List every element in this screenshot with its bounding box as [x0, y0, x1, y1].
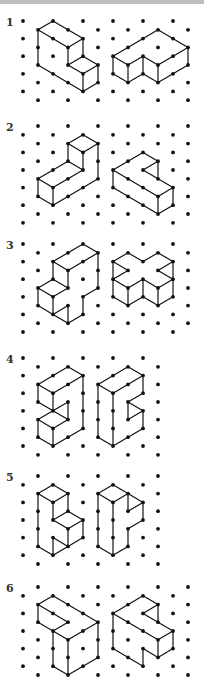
grid-dot	[36, 159, 40, 163]
edge-line	[98, 437, 113, 446]
edge-line	[158, 270, 173, 279]
grid-dot	[126, 142, 130, 146]
grid-dot	[36, 251, 40, 255]
grid-dot	[156, 286, 160, 290]
grid-dot	[111, 356, 115, 360]
grid-dot	[21, 594, 25, 598]
edge-line	[53, 666, 68, 675]
grid-dot	[81, 186, 85, 190]
grid-dot	[156, 28, 160, 32]
grid-dot	[111, 90, 115, 94]
edge-line	[53, 262, 68, 271]
grid-dot	[156, 562, 160, 566]
grid-dot	[81, 203, 85, 207]
grid-dot	[141, 356, 145, 360]
grid-dot	[21, 37, 25, 41]
edge-line	[68, 65, 83, 74]
grid-dot	[81, 356, 85, 360]
grid-dot	[126, 81, 130, 85]
grid-dot	[186, 656, 190, 660]
grid-dot	[66, 474, 70, 478]
edge-line	[83, 56, 98, 65]
grid-dot	[111, 260, 115, 264]
grid-dot	[21, 313, 25, 317]
grid-dot	[21, 483, 25, 487]
grid-dot	[81, 221, 85, 225]
edge-line	[158, 262, 173, 271]
grid-dot	[21, 409, 25, 413]
grid-dot	[51, 518, 55, 522]
grid-dot	[126, 474, 130, 478]
grid-dot	[51, 594, 55, 598]
grid-dot	[66, 383, 70, 387]
grid-dot	[81, 54, 85, 58]
grid-dot	[21, 203, 25, 207]
grid-dot	[111, 612, 115, 616]
grid-dot	[156, 159, 160, 163]
grid-dot	[111, 518, 115, 522]
grid-dot	[36, 63, 40, 67]
grid-dot	[66, 304, 70, 308]
grid-dot	[111, 151, 115, 155]
grid-dot	[186, 81, 190, 85]
figure-1	[21, 19, 190, 102]
edge-line	[53, 494, 68, 503]
edge-line	[38, 546, 53, 555]
edge-line	[143, 297, 158, 306]
grid-dot	[51, 72, 55, 76]
grid-dot	[96, 673, 100, 677]
edge-line	[83, 83, 98, 92]
grid-dot	[141, 427, 145, 431]
grid-dot	[21, 427, 25, 431]
grid-dot	[21, 90, 25, 94]
figure-3	[21, 242, 190, 334]
edge-line	[53, 420, 68, 429]
edge-line	[143, 605, 158, 614]
grid-dot	[51, 295, 55, 299]
grid-dot	[171, 330, 175, 334]
grid-dot	[126, 673, 130, 677]
edge-line	[113, 494, 128, 503]
grid-dot	[21, 553, 25, 557]
figure-label-1: 1	[6, 17, 14, 28]
grid-dot	[66, 81, 70, 85]
grid-dot	[96, 159, 100, 163]
edge-line	[128, 393, 143, 402]
grid-dot	[66, 400, 70, 404]
grid-dot	[81, 260, 85, 264]
grid-dot	[81, 391, 85, 395]
grid-dot	[81, 501, 85, 505]
edge-line	[128, 367, 143, 376]
grid-dot	[171, 90, 175, 94]
edge-line	[143, 74, 158, 83]
grid-dot	[171, 186, 175, 190]
edge-line	[128, 279, 143, 288]
edge-line	[158, 649, 173, 658]
grid-dot	[51, 133, 55, 137]
grid-dot	[96, 28, 100, 32]
edge-line	[53, 314, 68, 323]
grid-dot	[141, 553, 145, 557]
grid-dot	[141, 133, 145, 137]
grid-dot	[111, 54, 115, 58]
grid-dot	[111, 221, 115, 225]
edge-line	[38, 288, 53, 297]
grid-dot	[51, 391, 55, 395]
grid-dot	[156, 46, 160, 50]
edge-line	[38, 384, 53, 393]
grid-dot	[81, 444, 85, 448]
grid-dot	[51, 553, 55, 557]
grid-dot	[36, 638, 40, 642]
grid-dot	[66, 656, 70, 660]
edge-line	[68, 367, 83, 376]
grid-dot	[96, 492, 100, 496]
edge-line	[53, 622, 68, 631]
grid-dot	[126, 527, 130, 531]
grid-dot	[96, 418, 100, 422]
figure-5	[21, 474, 160, 566]
grid-dot	[156, 81, 160, 85]
grid-dot	[96, 177, 100, 181]
grid-dot	[81, 277, 85, 281]
grid-dot	[96, 603, 100, 607]
grid-dot	[171, 37, 175, 41]
